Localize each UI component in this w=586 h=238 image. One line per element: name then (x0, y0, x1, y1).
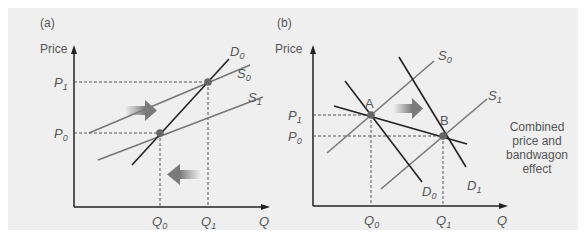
panel-a-s1-label: S1 (248, 90, 262, 107)
panel-a: (a) Price D0 S0 S1 P1 (40, 16, 270, 231)
panel-b-d1-label: D1 (467, 178, 481, 195)
panel-b-p1-label: P1 (288, 108, 302, 125)
panel-a-left-arrow-icon (167, 164, 201, 185)
panel-b-label: (b) (277, 16, 292, 30)
panel-b-p0-label: P0 (288, 129, 302, 146)
panel-b-q1-label: Q1 (436, 213, 451, 230)
panel-b-y-axis-arrow-icon (310, 45, 316, 54)
panel-b-q-axis-label: Q (497, 213, 507, 228)
panel-b-point-a-label: A (365, 96, 374, 111)
panel-a-q1-label: Q1 (201, 214, 216, 231)
svg-text:Combined: Combined (510, 120, 565, 134)
panel-b-q0-label: Q0 (364, 213, 379, 230)
panel-b-point-b-label: B (440, 113, 449, 128)
panel-b-point-a (367, 111, 375, 119)
panel-b-s1-label: S1 (488, 88, 502, 105)
panel-a-p0-label: P0 (54, 126, 68, 143)
panel-a-q-axis-label: Q (259, 214, 269, 229)
panel-b-right-arrow-icon (393, 98, 423, 119)
panel-b: (b) Price A B S0 S1 D0 D1 (275, 16, 568, 230)
svg-text:bandwagon: bandwagon (506, 148, 568, 162)
panel-a-equilibrium-point-1 (204, 78, 212, 86)
panel-a-s0-label: S0 (237, 66, 251, 83)
panel-b-d0-label: D0 (422, 184, 436, 201)
panel-a-p1-label: P1 (54, 75, 68, 92)
panel-a-x-axis-arrow-icon (261, 204, 270, 210)
panel-b-y-axis-label: Price (275, 42, 303, 56)
svg-text:effect: effect (522, 162, 552, 176)
panel-a-y-axis-label: Price (40, 42, 68, 56)
panel-a-supply-s1 (98, 97, 263, 160)
supply-demand-diagram: (a) Price D0 S0 S1 P1 (0, 0, 586, 238)
panel-a-supply-s0 (89, 65, 250, 133)
panel-a-q0-label: Q0 (152, 214, 167, 231)
panel-b-x-axis-arrow-icon (499, 203, 508, 209)
svg-text:price and: price and (512, 134, 561, 148)
panel-b-demand-d0 (345, 81, 422, 182)
panel-b-annotation: Combined price and bandwagon effect (506, 120, 568, 176)
panel-a-right-arrow-icon (125, 100, 157, 121)
panel-a-y-axis-arrow-icon (71, 45, 77, 54)
panel-a-equilibrium-point-0 (156, 129, 164, 137)
panel-a-label: (a) (40, 16, 55, 30)
panel-b-point-b (439, 132, 447, 140)
panel-b-s0-label: S0 (438, 48, 452, 65)
panel-a-d0-label: D0 (230, 44, 244, 61)
